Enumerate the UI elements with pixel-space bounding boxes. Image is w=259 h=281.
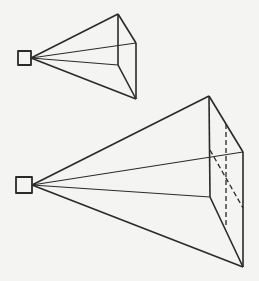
small-edge-inner-bottom [118, 65, 136, 99]
small-pyramid [18, 14, 136, 99]
large-eye-box [16, 177, 32, 193]
large-ray-bottom [32, 185, 243, 267]
large-edge-top-inner [209, 96, 210, 197]
viewing-pyramids-diagram [0, 0, 259, 281]
small-eye-box [18, 51, 31, 65]
small-ray-bottom [31, 58, 136, 99]
small-edge-top-right [118, 14, 136, 43]
large-pyramid [16, 96, 243, 267]
